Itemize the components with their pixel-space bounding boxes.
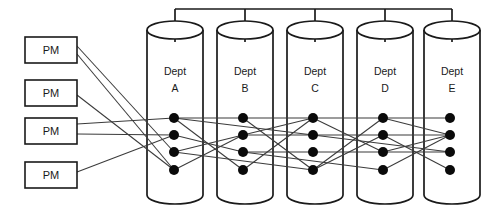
edge-link-8 — [243, 118, 313, 135]
cylinder-top-ellipse-deptC — [287, 21, 343, 39]
cylinder-bottom-arc-deptB — [217, 195, 273, 204]
node-deptA-3[interactable] — [169, 147, 179, 157]
cylinder-label-name-deptB: B — [241, 82, 248, 94]
labels-group: DeptADeptBDeptCDeptDDeptEPMPMPMPM — [43, 44, 463, 181]
cylinder-label-name-deptA: A — [171, 82, 178, 94]
node-deptB-4[interactable] — [238, 165, 248, 175]
node-deptA-4[interactable] — [169, 165, 179, 175]
cylinder-label-top-deptD: Dept — [374, 65, 396, 77]
pm-box-label-pm3: PM — [43, 125, 60, 137]
cylinder-bottom-arc-deptC — [287, 195, 343, 204]
pm-box-label-pm1: PM — [43, 44, 60, 56]
cylinder-label-name-deptD: D — [381, 82, 389, 94]
cylinder-label-name-deptC: C — [311, 82, 319, 94]
cylinder-top-ellipse-deptD — [357, 21, 413, 39]
node-deptB-1[interactable] — [238, 113, 248, 123]
cylinder-bottom-arc-deptA — [147, 195, 203, 204]
node-deptE-4[interactable] — [445, 165, 455, 175]
edge-pm-link-1 — [77, 54, 174, 170]
node-deptA-2[interactable] — [169, 130, 179, 140]
node-deptA-1[interactable] — [169, 113, 179, 123]
node-deptD-2[interactable] — [378, 130, 388, 140]
cylinder-top-ellipse-deptB — [217, 21, 273, 39]
node-deptB-2[interactable] — [238, 130, 248, 140]
cylinder-label-top-deptC: Dept — [304, 65, 326, 77]
node-deptD-1[interactable] — [378, 113, 388, 123]
cylinder-bottom-arc-deptE — [424, 195, 480, 204]
node-deptC-3[interactable] — [308, 147, 318, 157]
network-diagram: DeptADeptBDeptCDeptDDeptEPMPMPMPM — [0, 0, 494, 210]
pm-box-label-pm2: PM — [43, 87, 60, 99]
pm-boxes-group — [25, 37, 77, 188]
node-deptD-3[interactable] — [378, 147, 388, 157]
cylinder-top-ellipse-deptA — [147, 21, 203, 39]
edge-link-18 — [383, 118, 450, 135]
cylinder-bottom-arc-deptD — [357, 195, 413, 204]
edge-pm-link-2 — [77, 95, 174, 170]
edge-pm-link-0 — [77, 46, 174, 152]
node-deptC-4[interactable] — [308, 165, 318, 175]
edge-pm-link-4 — [77, 134, 174, 135]
edge-link-22 — [383, 135, 450, 152]
cylinder-label-top-deptE: Dept — [441, 65, 463, 77]
node-deptD-4[interactable] — [378, 165, 388, 175]
node-deptE-2[interactable] — [445, 130, 455, 140]
node-deptB-3[interactable] — [238, 147, 248, 157]
cylinder-top-ellipse-deptE — [424, 21, 480, 39]
node-deptE-1[interactable] — [445, 113, 455, 123]
node-deptE-3[interactable] — [445, 147, 455, 157]
node-deptC-1[interactable] — [308, 113, 318, 123]
cylinders-group — [147, 21, 480, 204]
cylinder-label-top-deptA: Dept — [164, 65, 186, 77]
cylinder-label-name-deptE: E — [448, 82, 455, 94]
edge-link-4 — [174, 135, 243, 170]
cylinder-label-top-deptB: Dept — [234, 65, 256, 77]
pm-box-label-pm4: PM — [43, 169, 60, 181]
edge-pm-link-3 — [77, 118, 174, 124]
node-deptC-2[interactable] — [308, 130, 318, 140]
diagram-canvas: DeptADeptBDeptCDeptDDeptEPMPMPMPM — [0, 0, 494, 210]
edge-pm-link-5 — [77, 135, 174, 172]
